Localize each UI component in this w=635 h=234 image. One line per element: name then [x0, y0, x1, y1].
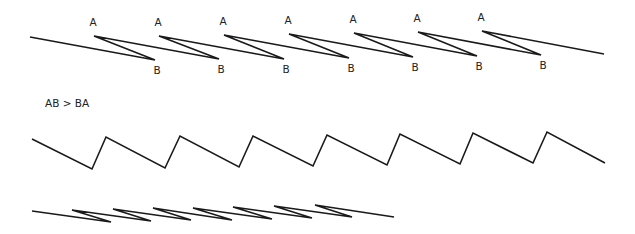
- point-label-b: B: [475, 60, 482, 72]
- point-label-b: B: [153, 64, 160, 76]
- top-zigzag-line: [30, 31, 604, 60]
- point-label-b: B: [347, 62, 354, 74]
- point-label-b: B: [217, 63, 224, 75]
- comparison-caption: AB > BA: [45, 97, 89, 109]
- point-label-a: A: [154, 16, 162, 28]
- point-label-a: A: [477, 11, 485, 23]
- zigzag-diagram: AAAAAAABBBBBBB: [0, 0, 635, 234]
- point-label-a: A: [89, 16, 97, 28]
- bottom-compressed-zigzag-line: [32, 205, 394, 222]
- point-label-b: B: [282, 63, 289, 75]
- point-label-a: A: [284, 14, 292, 26]
- point-label-b: B: [539, 59, 546, 71]
- point-label-a: A: [349, 13, 357, 25]
- middle-sawtooth-line: [32, 132, 605, 169]
- point-label-b: B: [411, 61, 418, 73]
- point-label-a: A: [219, 15, 227, 27]
- point-label-a: A: [413, 12, 421, 24]
